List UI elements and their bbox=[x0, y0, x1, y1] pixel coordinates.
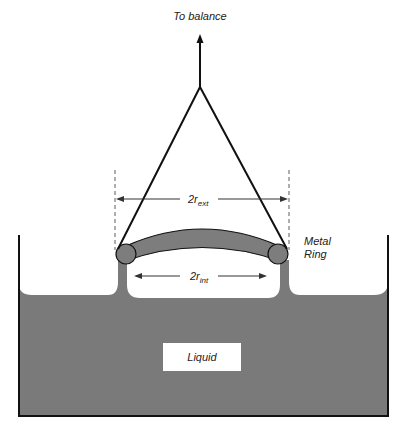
arrow-left-icon bbox=[116, 196, 124, 202]
arrow-right-icon bbox=[280, 196, 288, 202]
arrow-right-icon bbox=[259, 273, 267, 279]
arrow-left-icon bbox=[134, 273, 142, 279]
hanger-wires bbox=[118, 87, 287, 249]
metal-ring bbox=[122, 229, 283, 262]
label-r-int: 2rint bbox=[189, 270, 209, 285]
label-metal: Metal bbox=[304, 235, 331, 247]
label-to-balance: To balance bbox=[173, 10, 226, 22]
label-r-ext: 2rext bbox=[187, 193, 209, 208]
arrow-up-icon bbox=[197, 34, 204, 43]
ring-tensiometer-diagram: To balance 2rext 2rint Metal Ring Liquid bbox=[0, 0, 406, 436]
label-liquid: Liquid bbox=[187, 351, 217, 363]
label-ring: Ring bbox=[304, 248, 328, 260]
